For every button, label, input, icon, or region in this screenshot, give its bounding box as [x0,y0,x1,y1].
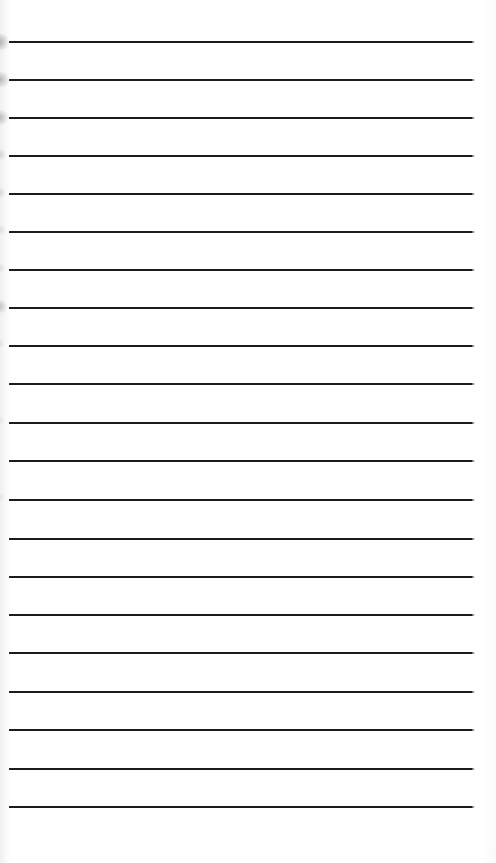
rule-line-20 [9,768,472,770]
rule-line-2 [9,79,472,81]
rule-line-13 [9,499,472,501]
rule-line-11 [9,422,472,424]
rule-line-1 [9,41,472,43]
rule-line-6 [9,231,472,233]
rule-line-5 [9,193,472,195]
rule-line-17 [9,652,472,654]
notepad-page: Blank Ruled Notepad Page Scanned blank s… [0,0,496,863]
rule-line-9 [9,345,472,347]
ruled-lines-layer [0,0,496,863]
rule-line-19 [9,729,472,731]
rule-line-18 [9,691,472,693]
bottom-margin-area [0,808,496,863]
rule-line-7 [9,269,472,271]
rule-line-14 [9,538,472,540]
rule-line-4 [9,155,472,157]
rule-line-16 [9,614,472,616]
rule-line-3 [9,117,472,119]
rule-line-8 [9,307,472,309]
rule-line-12 [9,460,472,462]
rule-line-10 [9,383,472,385]
rule-line-15 [9,576,472,578]
